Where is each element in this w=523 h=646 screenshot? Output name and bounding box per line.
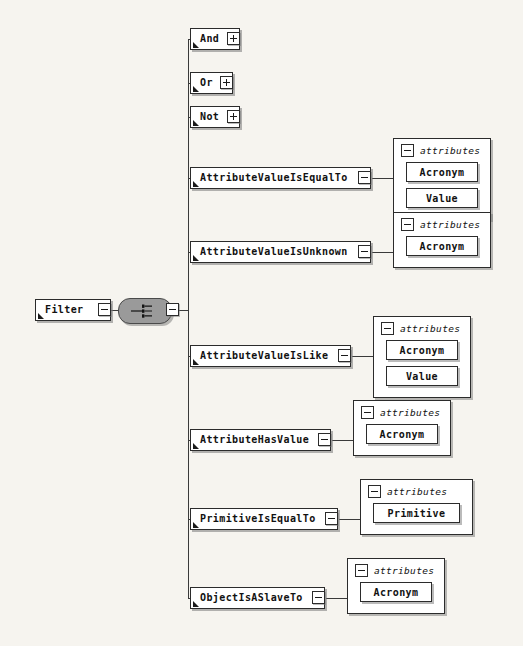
- attributes-group-header: attributes: [401, 218, 480, 231]
- attribute-node-acronym[interactable]: Acronym: [360, 582, 432, 602]
- element-node-filter[interactable]: Filter: [35, 299, 111, 321]
- attribute-node-primitive[interactable]: Primitive: [373, 503, 460, 523]
- element-node-attributevalueisunknown[interactable]: AttributeValueIsUnknown: [190, 241, 371, 263]
- expand-toggle-primitiveisequalto[interactable]: [325, 512, 338, 525]
- element-node-label: AttributeHasValue: [191, 430, 309, 450]
- element-node-objectisaslaveto[interactable]: ObjectIsASlaveTo: [190, 587, 325, 609]
- element-node-label: AttributeValueIsEqualTo: [191, 168, 348, 188]
- attributes-group-label: attributes: [420, 145, 480, 156]
- element-node-label: Or: [191, 73, 213, 93]
- element-node-label: ObjectIsASlaveTo: [191, 588, 303, 608]
- collapse-toggle-attributes[interactable]: [401, 218, 414, 231]
- attributes-group-label: attributes: [380, 407, 440, 418]
- attribute-node-label: Acronym: [374, 587, 419, 598]
- element-node-attributevalueisequalto[interactable]: AttributeValueIsEqualTo: [190, 167, 371, 189]
- expand-toggle-attributevalueisunknown[interactable]: [358, 245, 371, 258]
- element-node-label: AttributeValueIsLike: [191, 346, 328, 366]
- collapse-toggle-attributes[interactable]: [368, 485, 381, 498]
- attribute-node-label: Acronym: [400, 345, 445, 356]
- element-node-or[interactable]: Or: [190, 72, 233, 94]
- attributes-group-label: attributes: [374, 565, 434, 576]
- attribute-node-acronym[interactable]: Acronym: [366, 424, 438, 444]
- element-node-label: AttributeValueIsUnknown: [191, 242, 348, 262]
- attribute-node-value[interactable]: Value: [406, 188, 478, 208]
- element-node-attributehasvalue[interactable]: AttributeHasValue: [190, 429, 331, 451]
- attribute-node-label: Primitive: [388, 508, 446, 519]
- attribute-node-label: Acronym: [380, 429, 425, 440]
- attributes-group-label: attributes: [387, 486, 447, 497]
- collapse-toggle-attributes[interactable]: [355, 564, 368, 577]
- attribute-node-label: Value: [426, 193, 458, 204]
- element-node-primitiveisequalto[interactable]: PrimitiveIsEqualTo: [190, 508, 338, 530]
- collapse-toggle-attributes[interactable]: [381, 322, 394, 335]
- element-node-label: Not: [191, 107, 219, 127]
- attribute-node-acronym[interactable]: Acronym: [386, 340, 458, 360]
- schema-diagram-canvas: Filter AndOrNotAttributeValueIsEqualToat…: [0, 0, 523, 646]
- expand-toggle-not[interactable]: [227, 110, 240, 123]
- attributes-group-header: attributes: [355, 564, 434, 577]
- expand-toggle-objectisaslaveto[interactable]: [312, 591, 325, 604]
- expand-toggle-attributehasvalue[interactable]: [318, 433, 331, 446]
- attributes-group-header: attributes: [368, 485, 447, 498]
- element-node-attributevalueislike[interactable]: AttributeValueIsLike: [190, 345, 351, 367]
- attributes-group-header: attributes: [401, 144, 480, 157]
- attribute-node-acronym[interactable]: Acronym: [406, 162, 478, 182]
- attribute-node-value[interactable]: Value: [386, 366, 458, 386]
- attribute-node-label: Acronym: [420, 241, 465, 252]
- element-node-label: And: [191, 29, 219, 49]
- expand-toggle-attributevalueisequalto[interactable]: [358, 171, 371, 184]
- choice-symbol-icon: [119, 299, 171, 323]
- collapse-toggle-attributes[interactable]: [401, 144, 414, 157]
- element-node-label: PrimitiveIsEqualTo: [191, 509, 316, 529]
- attribute-node-label: Acronym: [420, 167, 465, 178]
- collapse-toggle-attributes[interactable]: [361, 406, 374, 419]
- expand-toggle-filter-left[interactable]: [98, 303, 111, 316]
- attribute-node-label: Value: [406, 371, 438, 382]
- element-node-label: Filter: [36, 300, 84, 320]
- expand-toggle-filter-right[interactable]: [166, 303, 179, 316]
- attribute-node-acronym[interactable]: Acronym: [406, 236, 478, 256]
- expand-toggle-or[interactable]: [220, 76, 233, 89]
- choice-compositor[interactable]: [118, 298, 172, 324]
- attributes-group-header: attributes: [361, 406, 440, 419]
- element-node-and[interactable]: And: [190, 28, 240, 50]
- attributes-group-label: attributes: [420, 219, 480, 230]
- element-node-not[interactable]: Not: [190, 106, 240, 128]
- expand-toggle-attributevalueislike[interactable]: [338, 349, 351, 362]
- expand-toggle-and[interactable]: [227, 32, 240, 45]
- attributes-group-label: attributes: [400, 323, 460, 334]
- attributes-group-header: attributes: [381, 322, 460, 335]
